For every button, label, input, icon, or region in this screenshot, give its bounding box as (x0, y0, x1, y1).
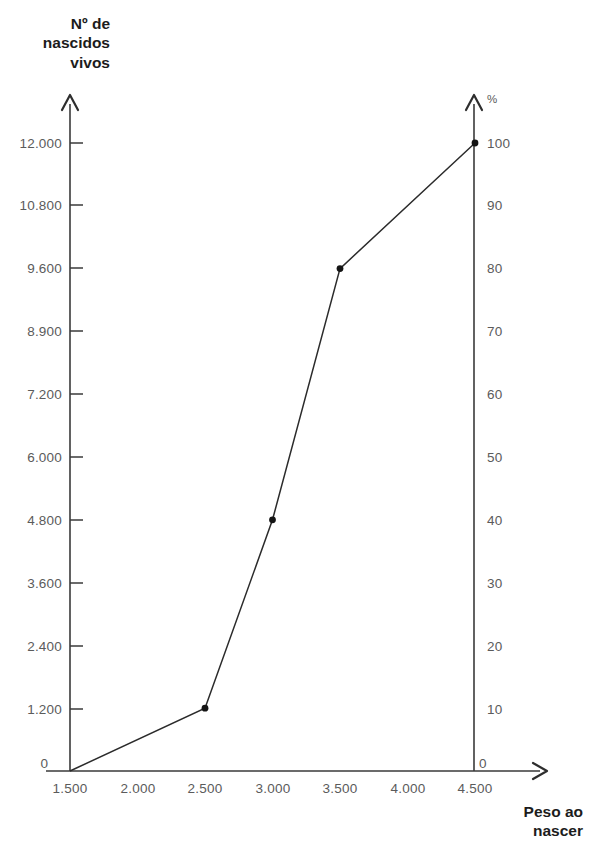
y-axis-tick-labels: 12.000 10.800 9.600 8.900 7.200 6.000 4.… (20, 136, 63, 771)
right-tick-label: 40 (487, 513, 502, 528)
x-tick-label: 2.000 (121, 781, 156, 796)
data-point-marker (337, 265, 344, 272)
x-tick-label: 4.000 (391, 781, 426, 796)
y-tick-label: 4.800 (27, 513, 62, 528)
right-tick-label: 10 (487, 702, 502, 717)
right-tick-label: 60 (487, 387, 502, 402)
right-axis-tick-labels: 100 90 80 70 60 50 40 30 20 10 0 (479, 136, 510, 771)
x-tick-label: 1.500 (53, 781, 88, 796)
y-tick-label: 1.200 (27, 702, 62, 717)
y-axis-ticks (70, 143, 83, 709)
x-tick-label: 4.500 (458, 781, 493, 796)
right-axis-origin-label: 0 (479, 756, 487, 771)
right-tick-label: 30 (487, 576, 502, 591)
x-tick-label: 3.000 (256, 781, 291, 796)
data-point-marker (202, 705, 209, 712)
data-series-line (70, 143, 475, 771)
y-axis-origin-label: 0 (40, 756, 48, 771)
chart-figure: Nº de nascidos vivos Peso ao nascer % (0, 0, 589, 862)
y-tick-label: 9.600 (27, 261, 62, 276)
x-axis-tick-labels: 1.500 2.000 2.500 3.000 3.500 4.000 4.50… (53, 781, 493, 796)
chart-canvas: % 12.000 10.800 9.600 8.900 7.200 6.000 … (0, 0, 589, 862)
y-tick-label: 12.000 (20, 136, 63, 151)
y-tick-label: 7.200 (27, 387, 62, 402)
data-point-marker (472, 140, 479, 147)
x-tick-label: 3.500 (323, 781, 358, 796)
right-tick-label: 20 (487, 639, 502, 654)
data-point-markers (202, 140, 479, 712)
data-point-marker (269, 516, 276, 523)
right-tick-label: 50 (487, 450, 502, 465)
x-tick-label: 2.500 (188, 781, 223, 796)
y-tick-label: 2.400 (27, 639, 62, 654)
y-tick-label: 6.000 (27, 450, 62, 465)
right-tick-label: 90 (487, 198, 502, 213)
y-tick-label: 10.800 (20, 198, 63, 213)
y-tick-label: 3.600 (27, 576, 62, 591)
right-tick-label: 80 (487, 261, 502, 276)
y-tick-label: 8.900 (27, 324, 62, 339)
right-tick-label: 70 (487, 324, 502, 339)
right-tick-label: 100 (487, 136, 510, 151)
right-axis-title: % (487, 93, 497, 105)
